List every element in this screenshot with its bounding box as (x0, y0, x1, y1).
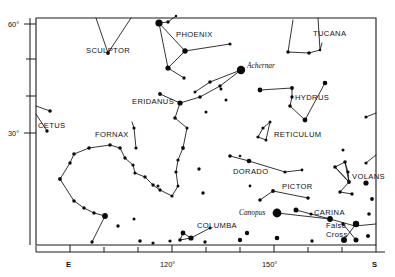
star-chart-figure: 60° 30° E 120° 150° S (0, 0, 395, 277)
sky-map-canvas: 60° 30° E 120° 150° S (0, 0, 395, 277)
conline-cetus (36, 106, 50, 111)
label-star-achernar: Achernar (246, 61, 275, 70)
star-achernar (237, 66, 245, 74)
label-hydrus: HYDRUS (295, 93, 329, 102)
label-tucana: TUCANA (313, 29, 347, 38)
label-sculptor: SCULPTOR (86, 46, 130, 55)
constellation-labels: SCULPTOR PHOENIX TUCANA CETUS ERIDANUS F… (38, 29, 385, 239)
label-dorado: DORADO (233, 167, 268, 176)
label-star-canopus: Canopus (239, 208, 265, 217)
label-cetus: CETUS (38, 121, 66, 130)
x-tick-label-south: S (372, 260, 377, 269)
label-false-cross-line2: Cross (326, 230, 348, 239)
conline-pictor (260, 191, 273, 200)
label-pictor: PICTOR (282, 182, 313, 191)
label-volans: VOLANS (352, 172, 385, 181)
label-carina: CARINA (314, 208, 345, 217)
conline-eridanus-upper (180, 70, 241, 103)
x-tick-label-120: 120° (160, 260, 175, 269)
y-axis: 60° 30° (8, 18, 36, 245)
label-phoenix: PHOENIX (176, 30, 213, 39)
label-columba: COLUMBA (197, 221, 238, 230)
x-tick-label-150: 150° (262, 260, 277, 269)
star-canopus (273, 209, 282, 218)
y-tick-label-30: 30° (8, 129, 19, 138)
conline-fornax (134, 128, 136, 148)
x-tick-label-east: E (66, 260, 71, 269)
label-reticulum: RETICULUM (274, 130, 321, 139)
x-axis: E 120° 150° S (36, 245, 385, 269)
label-false-cross-line1: False (326, 221, 346, 230)
y-tick-label-60: 60° (8, 20, 19, 29)
label-eridanus: ERIDANUS (132, 97, 174, 106)
conline-edge-right (366, 113, 376, 117)
label-fornax: FORNAX (95, 130, 129, 139)
conline-hydrus (260, 88, 292, 90)
